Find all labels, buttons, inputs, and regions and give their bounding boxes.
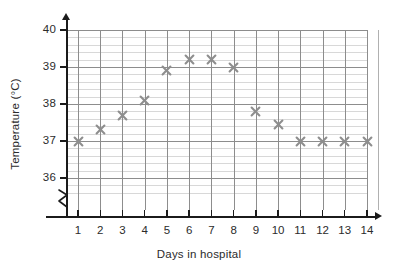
x-axis-tick: [344, 210, 345, 217]
x-axis-arrow-icon: [375, 212, 382, 220]
gridline-vertical: [145, 30, 146, 210]
y-axis-tick-label: 38: [16, 97, 56, 109]
data-point-marker: [206, 54, 217, 65]
data-point-marker: [250, 106, 261, 117]
x-axis-tick: [166, 210, 167, 217]
data-point-marker: [73, 136, 84, 147]
x-axis-tick-label: 11: [288, 224, 312, 236]
gridline-vertical: [323, 30, 324, 210]
data-point-marker: [95, 124, 106, 135]
data-point-marker: [339, 136, 350, 147]
y-axis-arrow-icon: [62, 13, 70, 20]
data-point-marker: [117, 110, 128, 121]
y-axis-tick: [60, 29, 67, 31]
x-axis-tick: [233, 210, 234, 217]
x-axis-tick: [277, 210, 278, 217]
y-axis-tick-label: 39: [16, 60, 56, 72]
data-point-marker: [273, 119, 284, 130]
data-point-marker: [362, 136, 373, 147]
gridline-vertical: [78, 30, 79, 210]
gridline-vertical: [167, 30, 168, 210]
x-axis-tick-label: 8: [222, 224, 246, 236]
x-axis-tick-label: 9: [244, 224, 268, 236]
y-axis-tick-label: 37: [16, 134, 56, 146]
x-axis-tick-label: 6: [177, 224, 201, 236]
data-point-marker: [139, 95, 150, 106]
y-axis-tick-label: 40: [16, 23, 56, 35]
x-axis-tick-label: 2: [88, 224, 112, 236]
x-axis-tick-label: 3: [110, 224, 134, 236]
data-point-marker: [161, 65, 172, 76]
axis-break-icon: [57, 186, 77, 212]
gridline-vertical: [256, 30, 257, 210]
x-axis-tick: [144, 210, 145, 217]
gridline-vertical: [345, 30, 346, 210]
x-axis-tick-label: 1: [66, 224, 90, 236]
gridline-vertical: [300, 30, 301, 210]
x-axis-tick-label: 10: [266, 224, 290, 236]
x-axis-tick: [366, 210, 367, 217]
x-axis-tick-label: 7: [199, 224, 223, 236]
gridline-vertical: [234, 30, 235, 210]
y-axis-tick: [60, 140, 67, 142]
y-axis-tick: [60, 66, 67, 68]
x-axis-tick: [100, 210, 101, 217]
y-axis-title-wrapper: Temperature (°C): [0, 0, 1, 1]
y-axis-tick: [60, 177, 67, 179]
data-point-marker: [295, 136, 306, 147]
x-axis-tick: [122, 210, 123, 217]
x-axis-tick-label: 13: [333, 224, 357, 236]
x-axis-tick: [322, 210, 323, 217]
data-point-marker: [317, 136, 328, 147]
x-axis-tick-label: 14: [355, 224, 379, 236]
y-axis-tick-label: 36: [16, 171, 56, 183]
x-axis-tick: [188, 210, 189, 217]
x-axis-tick: [77, 210, 78, 217]
x-axis-tick: [211, 210, 212, 217]
x-axis-tick-label: 4: [133, 224, 157, 236]
gridline-vertical: [100, 30, 101, 210]
y-axis-tick: [60, 103, 67, 105]
scatter-chart: 4039383736 1234567891011121314 Days in h…: [0, 0, 398, 274]
data-point-marker: [184, 54, 195, 65]
plot-area: [67, 25, 378, 210]
x-axis-title: Days in hospital: [0, 248, 398, 260]
x-axis-tick: [300, 210, 301, 217]
y-axis-title: Temperature (°C): [9, 54, 21, 194]
grid-area: [67, 30, 367, 210]
gridline-vertical: [367, 30, 368, 210]
x-axis-tick-label: 5: [155, 224, 179, 236]
x-axis-tick-label: 12: [311, 224, 335, 236]
gridline-vertical-edge: [378, 30, 379, 210]
x-axis-tick: [255, 210, 256, 217]
data-point-marker: [228, 62, 239, 73]
